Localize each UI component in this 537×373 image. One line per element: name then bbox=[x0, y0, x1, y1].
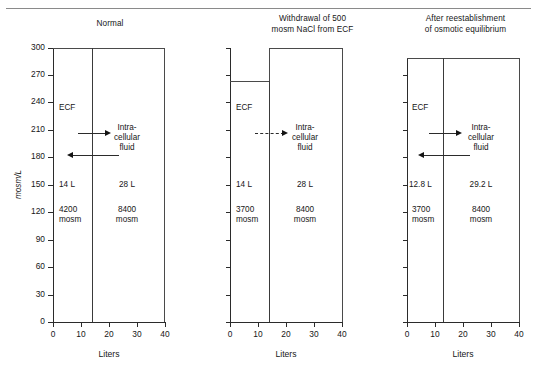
y-tick-label-normal: 180 bbox=[20, 152, 45, 161]
x-tick-equilibrium bbox=[407, 322, 408, 327]
y-tick-withdrawal bbox=[226, 48, 231, 49]
y-tick-equilibrium bbox=[403, 157, 408, 158]
x-tick-label-equilibrium: 20 bbox=[453, 330, 473, 339]
ecf-box-top-withdrawal bbox=[230, 81, 270, 82]
icf-label-withdrawal: Intra- cellular fluid bbox=[281, 123, 329, 153]
water-flow-arrow-right-shaft-withdrawal bbox=[255, 133, 284, 134]
x-tick-normal bbox=[137, 322, 138, 327]
x-tick-label-normal: 0 bbox=[43, 330, 63, 339]
icf-box-right-withdrawal bbox=[342, 48, 343, 322]
y-tick-label-normal: 270 bbox=[20, 70, 45, 79]
icf-osmoles-normal: 8400 mosm bbox=[103, 205, 151, 225]
ecf-volume-equilibrium: 12.8 L bbox=[409, 180, 453, 190]
y-axis-line-withdrawal bbox=[230, 48, 231, 323]
compartment-divider-withdrawal bbox=[269, 81, 270, 322]
x-tick-normal bbox=[165, 322, 166, 327]
water-flow-arrow-left-head-equilibrium bbox=[418, 152, 424, 158]
y-tick-normal bbox=[48, 157, 53, 158]
x-tick-label-normal: 40 bbox=[155, 330, 175, 339]
y-tick-normal bbox=[48, 185, 53, 186]
x-tick-withdrawal bbox=[258, 322, 259, 327]
x-tick-label-normal: 30 bbox=[127, 330, 147, 339]
x-tick-label-withdrawal: 40 bbox=[332, 330, 352, 339]
y-axis-line-normal bbox=[53, 48, 54, 323]
x-tick-label-equilibrium: 30 bbox=[481, 330, 501, 339]
x-tick-label-withdrawal: 30 bbox=[304, 330, 324, 339]
y-tick-withdrawal bbox=[226, 240, 231, 241]
y-tick-equilibrium bbox=[403, 75, 408, 76]
x-tick-label-withdrawal: 0 bbox=[220, 330, 240, 339]
water-flow-arrow-left-shaft-equilibrium bbox=[423, 155, 470, 156]
y-tick-normal bbox=[48, 295, 53, 296]
y-tick-normal bbox=[48, 212, 53, 213]
y-tick-withdrawal bbox=[226, 102, 231, 103]
y-tick-label-normal: 240 bbox=[20, 97, 45, 106]
ecf-label-equilibrium: ECF bbox=[412, 103, 452, 113]
y-tick-equilibrium bbox=[403, 130, 408, 131]
y-tick-equilibrium bbox=[403, 240, 408, 241]
y-tick-withdrawal bbox=[226, 75, 231, 76]
y-tick-normal bbox=[48, 75, 53, 76]
y-tick-label-normal: 210 bbox=[20, 125, 45, 134]
ecf-osmoles-normal: 4200 mosm bbox=[59, 205, 99, 225]
y-tick-equilibrium bbox=[403, 295, 408, 296]
icf-box-top-withdrawal bbox=[269, 48, 343, 49]
y-tick-withdrawal bbox=[226, 157, 231, 158]
ecf-osmoles-equilibrium: 3700 mosm bbox=[412, 205, 452, 225]
ecf-volume-normal: 14 L bbox=[59, 180, 99, 190]
y-tick-withdrawal bbox=[226, 212, 231, 213]
y-tick-equilibrium bbox=[403, 185, 408, 186]
icf-label-equilibrium: Intra- cellular fluid bbox=[457, 123, 505, 153]
x-tick-label-equilibrium: 0 bbox=[397, 330, 417, 339]
x-tick-equilibrium bbox=[463, 322, 464, 327]
panel-equilibrium: After reestablishment of osmotic equilib… bbox=[395, 0, 537, 373]
panel-equilibrium-title: After reestablishment of osmotic equilib… bbox=[393, 13, 537, 35]
water-flow-arrow-left-head-normal bbox=[67, 152, 73, 158]
x-tick-equilibrium bbox=[435, 322, 436, 327]
x-tick-label-normal: 20 bbox=[99, 330, 119, 339]
water-flow-arrow-right-shaft-normal bbox=[78, 133, 107, 134]
water-flow-arrow-right-head-withdrawal bbox=[282, 130, 288, 136]
icf-volume-normal: 28 L bbox=[103, 180, 151, 190]
x-tick-equilibrium bbox=[491, 322, 492, 327]
y-tick-withdrawal bbox=[226, 185, 231, 186]
panel-withdrawal-title: Withdrawal of 500 mosm NaCl from ECF bbox=[230, 13, 395, 35]
icf-volume-withdrawal: 28 L bbox=[281, 180, 329, 190]
y-tick-label-normal: 90 bbox=[20, 235, 45, 244]
x-tick-equilibrium bbox=[519, 322, 520, 327]
x-tick-withdrawal bbox=[230, 322, 231, 327]
x-axis-caption-withdrawal: Liters bbox=[236, 349, 336, 359]
y-tick-withdrawal bbox=[226, 130, 231, 131]
y-tick-normal bbox=[48, 267, 53, 268]
y-tick-equilibrium bbox=[403, 212, 408, 213]
y-tick-label-normal: 30 bbox=[20, 290, 45, 299]
x-tick-withdrawal bbox=[286, 322, 287, 327]
y-tick-label-normal: 60 bbox=[20, 262, 45, 271]
ecf-box-top-normal bbox=[53, 48, 165, 49]
figure-canvas: Normal 0 30 60 90 120 150 180 210 240 27… bbox=[0, 0, 537, 373]
icf-label-normal: Intra- cellular fluid bbox=[103, 123, 151, 153]
y-tick-normal bbox=[48, 240, 53, 241]
x-tick-normal bbox=[81, 322, 82, 327]
x-tick-label-withdrawal: 20 bbox=[276, 330, 296, 339]
water-flow-arrow-right-head-normal bbox=[105, 130, 111, 136]
x-axis-caption-equilibrium: Liters bbox=[413, 349, 513, 359]
fluid-box-right-equilibrium bbox=[519, 58, 520, 322]
x-tick-label-normal: 10 bbox=[71, 330, 91, 339]
y-tick-label-normal: 0 bbox=[20, 317, 45, 326]
x-axis-caption-normal: Liters bbox=[59, 349, 159, 359]
water-flow-arrow-left-shaft-normal bbox=[72, 155, 119, 156]
y-tick-equilibrium bbox=[403, 267, 408, 268]
panel-withdrawal: Withdrawal of 500 mosm NaCl from ECF 0 1… bbox=[225, 0, 395, 373]
y-tick-label-normal: 150 bbox=[20, 180, 45, 189]
x-tick-withdrawal bbox=[342, 322, 343, 327]
x-tick-normal bbox=[109, 322, 110, 327]
panel-normal: Normal 0 30 60 90 120 150 180 210 240 27… bbox=[0, 0, 225, 373]
ecf-osmoles-withdrawal: 3700 mosm bbox=[236, 205, 276, 225]
y-axis-title-normal: mosm/L bbox=[14, 163, 23, 207]
ecf-box-right-normal bbox=[164, 48, 165, 322]
y-tick-withdrawal bbox=[226, 295, 231, 296]
water-flow-arrow-right-shaft-equilibrium bbox=[429, 133, 458, 134]
fluid-box-top-equilibrium bbox=[407, 58, 520, 59]
y-tick-label-normal: 120 bbox=[20, 207, 45, 216]
